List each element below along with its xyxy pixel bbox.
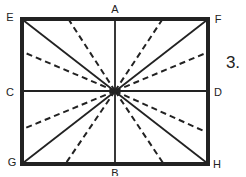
label-b: B bbox=[111, 168, 118, 177]
dashed-line-bottom-right bbox=[115, 91, 163, 163]
label-g: G bbox=[8, 157, 17, 168]
step-number: 3. bbox=[226, 54, 240, 71]
label-a: A bbox=[111, 4, 118, 15]
label-d: D bbox=[214, 87, 222, 98]
label-f: F bbox=[215, 14, 222, 25]
label-h: H bbox=[213, 159, 221, 170]
fold-diagram bbox=[0, 0, 246, 176]
dashed-line-bottom-left bbox=[66, 91, 115, 163]
label-e: E bbox=[6, 12, 13, 23]
center-point bbox=[113, 89, 118, 94]
label-c: C bbox=[6, 87, 14, 98]
